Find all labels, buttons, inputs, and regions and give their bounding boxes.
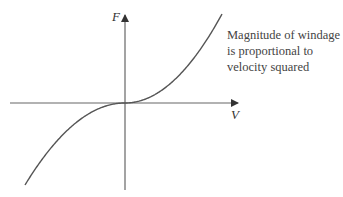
- annotation-line: is proportional to: [227, 43, 340, 59]
- y-axis-label: F: [111, 9, 121, 24]
- annotation: Magnitude of windage is proportional to …: [227, 27, 340, 75]
- annotation-line: Magnitude of windage: [227, 27, 340, 43]
- x-axis-label: V: [231, 107, 241, 122]
- annotation-line: velocity squared: [227, 59, 340, 75]
- force-velocity-curve: [25, 14, 222, 185]
